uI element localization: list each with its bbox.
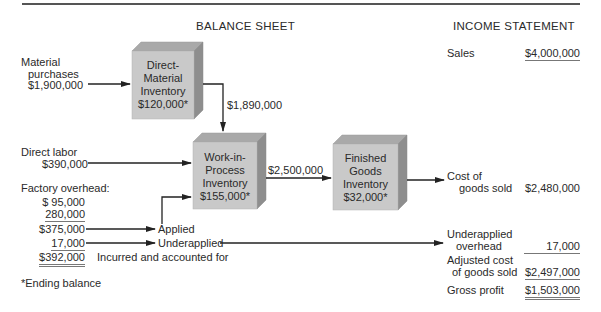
gross-profit-amount: $1,503,000 [500,284,580,296]
balance-sheet-header: BALANCE SHEET [196,20,295,32]
applied-label: Applied [158,223,195,235]
dm-line-2: Material [132,72,194,85]
overhead-line-5: $392,000 [30,251,85,263]
fg-amount: $32,000* [333,191,398,204]
overhead-line-3: $375,000 [30,223,85,235]
fg-line-1: Finished [333,152,398,165]
material-purchases-label-1: Material [21,56,60,68]
overhead-line-2-value: 280,000 [45,208,85,222]
underapplied-overhead-label-1: Underapplied [447,228,512,240]
wip-line-2: Process [193,164,257,177]
dm-to-wip-amount: $1,890,000 [227,99,282,111]
arrow-dm-to-wip [203,84,223,131]
wip-line-1: Work-in- [193,151,257,164]
cogs-label-1: Cost of [447,170,482,182]
direct-labor-label: Direct labor [21,146,77,158]
wip-to-fg-amount: $2,500,000 [268,164,323,176]
incurred-label: Incurred and accounted for [97,251,228,263]
sales-amount-value: $4,000,000 [525,47,580,61]
fg-line-3: Inventory [333,178,398,191]
gross-profit-label: Gross profit [447,284,504,296]
arrow-applied-to-wip [162,197,191,224]
adjusted-cogs-value: $2,497,000 [525,266,580,280]
sales-amount: $4,000,000 [500,47,580,59]
overhead-line-5-value: $392,000 [39,251,85,267]
factory-overhead-label: Factory overhead: [21,182,110,194]
overhead-line-4: 17,000 [30,237,85,249]
underapplied-overhead-label-2: overhead [456,240,502,252]
sales-label: Sales [447,47,475,59]
overhead-line-1: $ 95,000 [30,196,85,208]
wip-amount: $155,000* [193,190,257,203]
footnote: *Ending balance [21,277,101,289]
material-purchases-amount: $1,900,000 [28,79,83,91]
dm-line-3: Inventory [132,85,194,98]
adjusted-cogs-amount: $2,497,000 [500,266,580,278]
underapplied-label: Underapplied [158,237,223,249]
underapplied-overhead-value: 17,000 [524,240,580,254]
cogs-amount: $2,480,000 [500,182,580,194]
fg-box-text: Finished Goods Inventory $32,000* [333,152,398,204]
adjusted-cogs-label-1: Adjusted cost [447,254,513,266]
fg-line-2: Goods [333,165,398,178]
gross-profit-value: $1,503,000 [525,284,580,300]
dm-amount: $120,000* [132,98,194,111]
underapplied-overhead-amount: 17,000 [500,240,580,252]
overhead-line-2: 280,000 [30,208,85,220]
direct-labor-amount: $390,000 [42,158,88,170]
dm-line-1: Direct- [132,59,194,72]
income-statement-header: INCOME STATEMENT [453,20,575,32]
direct-material-box-text: Direct- Material Inventory $120,000* [132,59,194,111]
wip-line-3: Inventory [193,177,257,190]
overhead-line-4-value: 17,000 [51,237,85,251]
wip-box-text: Work-in- Process Inventory $155,000* [193,151,257,203]
